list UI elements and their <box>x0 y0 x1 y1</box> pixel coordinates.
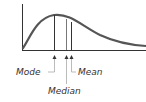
mean-arrow-icon <box>70 55 74 59</box>
skew-diagram: Mode Mean Median <box>0 0 146 102</box>
mode-label: Mode <box>16 67 41 77</box>
median-label: Median <box>48 86 81 96</box>
mode-leader <box>48 59 55 72</box>
density-curve <box>23 15 146 48</box>
median-arrow-icon <box>65 55 69 59</box>
mode-arrow-icon <box>53 55 57 59</box>
mean-leader <box>72 59 77 72</box>
mean-label: Mean <box>78 67 103 77</box>
